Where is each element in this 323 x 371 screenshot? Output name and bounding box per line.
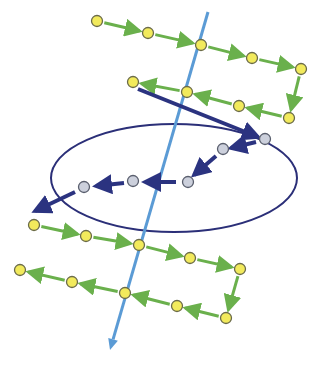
yellow-node: [92, 16, 103, 27]
yellow-node: [172, 301, 183, 312]
axis-arrowhead-icon: [108, 338, 118, 350]
bottom-row-1-arrow: [93, 237, 130, 243]
yellow-node: [67, 277, 78, 288]
navy-arrow: [96, 183, 124, 186]
top-connector-arrow: [291, 76, 299, 109]
top-row-2-arrow: [247, 108, 281, 116]
yellow-node: [235, 264, 246, 275]
bottom-row-1-arrow: [197, 260, 231, 268]
yellow-node: [15, 265, 26, 276]
bottom-row-1-arrow: [146, 247, 181, 256]
gray-node: [218, 144, 229, 155]
gray-node: [183, 177, 194, 188]
yellow-node: [247, 53, 258, 64]
yellow-node: [296, 64, 307, 75]
yellow-node: [128, 77, 139, 88]
spin-precession-diagram: [0, 0, 323, 371]
navy-arrow: [35, 192, 75, 211]
gray-node: [260, 134, 271, 145]
yellow-node: [81, 231, 92, 242]
top-row-1-arrow: [104, 23, 139, 31]
gray-node: [128, 176, 139, 187]
bottom-row-2-arrow: [185, 308, 218, 316]
navy-arrow: [231, 142, 256, 148]
bottom-row-2-arrow: [80, 284, 117, 292]
yellow-node: [134, 240, 145, 251]
top-row-1-arrow: [155, 35, 192, 43]
gray-node: [79, 182, 90, 193]
navy-arrow: [194, 156, 216, 175]
yellow-node: [120, 288, 131, 299]
yellow-node: [196, 40, 207, 51]
yellow-node: [29, 220, 40, 231]
yellow-node: [143, 28, 154, 39]
bottom-row-2-arrow: [28, 272, 64, 280]
yellow-node: [221, 313, 232, 324]
top-row-1-arrow: [208, 47, 243, 56]
bottom-row-2-arrow: [133, 295, 169, 304]
yellow-node: [182, 87, 193, 98]
top-row-1-arrow: [259, 60, 292, 67]
yellow-node: [234, 101, 245, 112]
top-row-2-arrow: [141, 84, 179, 91]
yellow-node: [284, 113, 295, 124]
bottom-connector-arrow: [228, 276, 238, 310]
yellow-node: [185, 253, 196, 264]
bottom-row-1-arrow: [41, 227, 77, 235]
top-row-2-arrow: [195, 94, 232, 104]
